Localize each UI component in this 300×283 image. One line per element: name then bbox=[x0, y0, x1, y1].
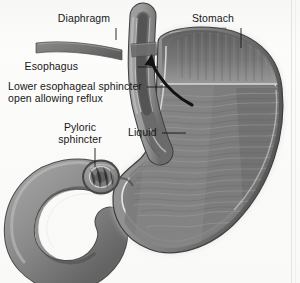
fundus-air bbox=[162, 30, 284, 84]
label-stomach: Stomach bbox=[171, 13, 255, 25]
label-lower-esophageal-sphincter: Lower esophageal sphincter open allowing… bbox=[8, 81, 148, 104]
label-pyloric-line1: Pyloric bbox=[49, 122, 111, 134]
label-pyloric-line2: sphincter bbox=[49, 134, 111, 146]
label-liquid: Liquid bbox=[128, 127, 157, 139]
stomach-reflux-diagram: Diaphragm Stomach Esophagus Lower esopha… bbox=[0, 0, 300, 283]
diaphragm-hiatus bbox=[131, 42, 157, 57]
anatomy-illustration bbox=[0, 0, 300, 283]
label-diaphragm: Diaphragm bbox=[42, 13, 126, 25]
label-pyloric-sphincter: Pyloric sphincter bbox=[49, 122, 111, 145]
label-les-line1: Lower esophageal sphincter bbox=[8, 81, 148, 93]
label-les-line2: open allowing reflux bbox=[8, 93, 148, 105]
label-esophagus: Esophagus bbox=[0, 61, 78, 73]
diaphragm-left bbox=[36, 42, 122, 60]
